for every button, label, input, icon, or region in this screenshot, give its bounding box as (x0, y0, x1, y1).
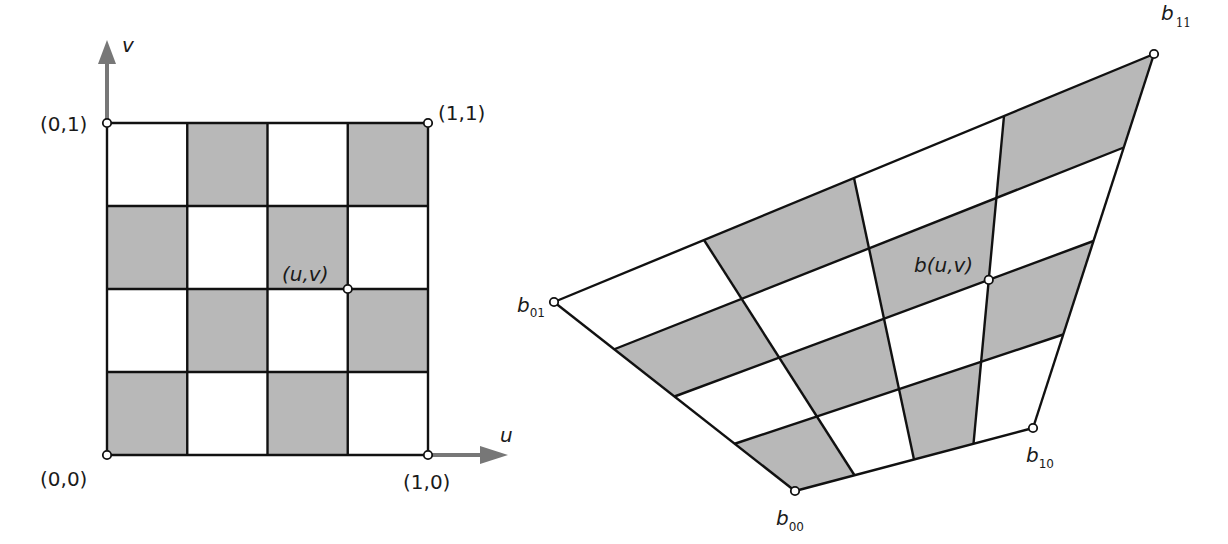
bilinear-patch-corner-point-icon (791, 487, 799, 495)
unit-square-corner-point-icon (424, 451, 432, 459)
unit-square-cell-white (107, 289, 187, 372)
unit-square-cell-white (187, 372, 267, 455)
unit-square-cell-gray (348, 289, 428, 372)
unit-square-cell-gray (268, 372, 348, 455)
bilinear-patch-panel: b01 b11 b00 b10 b(u,v) (517, 1, 1191, 534)
corner-label-0-1: (0,1) (40, 112, 87, 136)
unit-square-cell-white (187, 206, 267, 289)
unit-square-cell-gray (187, 123, 267, 206)
corner-label-b11: b11 (1161, 1, 1191, 30)
buv-point-label: b(u,v) (914, 253, 973, 277)
u-axis-label: u (500, 423, 513, 447)
bilinear-patch-cells (554, 54, 1154, 491)
bilinear-patch-corner-point-icon (1029, 424, 1037, 432)
v-axis-arrow-icon (98, 40, 116, 123)
bilinear-patch-corner-point-icon (1150, 50, 1158, 58)
corner-label-0-0: (0,0) (40, 467, 87, 491)
bilinear-patch-corner-point-icon (550, 298, 558, 306)
corner-label-b10: b10 (1026, 443, 1054, 471)
unit-square-cell-white (268, 289, 348, 372)
corner-label-b00: b00 (776, 506, 804, 534)
unit-square-corner-point-icon (103, 119, 111, 127)
unit-square-cell-gray (107, 206, 187, 289)
corner-label-1-0: (1,0) (403, 470, 450, 494)
v-axis-label: v (122, 33, 135, 57)
unit-square-cell-white (107, 123, 187, 206)
unit-square-corner-point-icon (424, 119, 432, 127)
unit-square-corner-point-icon (103, 451, 111, 459)
unit-square-cell-white (348, 372, 428, 455)
uv-point-label: (u,v) (282, 262, 328, 286)
unit-square-cell-gray (107, 372, 187, 455)
unit-square-cell-gray (348, 123, 428, 206)
unit-square-cell-white (348, 206, 428, 289)
unit-square-panel: v u (0,1) (1,1) (0,0) (1,0) (u,v) (40, 33, 513, 494)
unit-square-cell-white (268, 123, 348, 206)
u-axis-arrow-icon (428, 446, 508, 464)
bilinear-patch-sample-point-icon (985, 276, 993, 284)
corner-label-1-1: (1,1) (438, 101, 485, 125)
unit-square-cell-gray (187, 289, 267, 372)
bilinear-mapping-diagram: v u (0,1) (1,1) (0,0) (1,0) (u,v) b01 (0, 0, 1228, 544)
corner-label-b01: b01 (517, 293, 545, 320)
unit-square-sample-point-icon (344, 285, 352, 293)
